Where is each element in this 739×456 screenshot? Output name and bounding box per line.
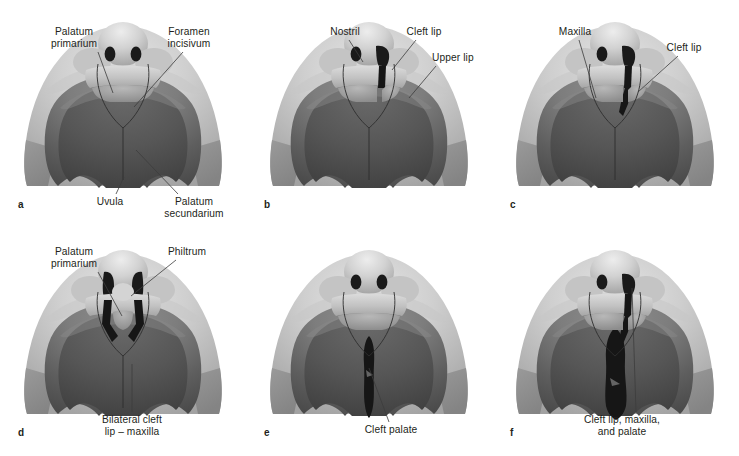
label-uvula: Uvula — [88, 196, 132, 208]
panel-letter-f: f — [510, 428, 513, 438]
label-palatum-primarium: Palatum primarium — [36, 246, 112, 269]
label-maxilla: Maxilla — [550, 26, 600, 38]
panel-f: Cleft lip, maxilla, and palatef — [492, 228, 738, 456]
label-bilateral-cleft-lip-maxilla: Bilateral cleft lip – maxilla — [84, 414, 180, 437]
panel-b: NostrilCleft lipUpper lipb — [246, 0, 492, 228]
panel-letter-a: a — [18, 200, 24, 210]
cleft-palate-narrow — [364, 336, 375, 418]
label-palatum-primarium: Palatum primarium — [36, 26, 112, 49]
panel-letter-d: d — [18, 428, 24, 438]
label-cleft-lip: Cleft lip — [658, 42, 710, 54]
nostril-left — [597, 46, 608, 61]
anatomy-illustration-c — [492, 0, 738, 228]
label-upper-lip: Upper lip — [432, 52, 490, 64]
upper-lip — [85, 66, 161, 89]
philtrum — [112, 283, 134, 301]
panel-letter-c: c — [510, 200, 516, 210]
cleft-lip-gap — [624, 66, 632, 88]
label-cleft-lip-maxilla-and-palate: Cleft lip, maxilla, and palate — [566, 414, 678, 437]
panel-c: MaxillaCleft lipc — [492, 0, 738, 228]
label-nostril: Nostril — [322, 26, 368, 38]
upper-lip — [331, 294, 407, 317]
nostril-left — [351, 46, 362, 61]
anatomy-illustration-e — [246, 228, 492, 456]
nostril-left — [597, 274, 608, 289]
label-cleft-palate: Cleft palate — [354, 424, 428, 436]
upper-lip — [331, 66, 407, 89]
nostril-left — [351, 274, 362, 289]
nostril-right — [377, 274, 388, 289]
panel-e: Cleft palatee — [246, 228, 492, 456]
label-foramen-incisivum: Foramen incisivum — [150, 26, 228, 49]
label-palatum-secundarium: Palatum secundarium — [150, 196, 238, 219]
upper-lip — [577, 294, 653, 317]
figure-plate: Palatum primariumForamen incisivumUvulaP… — [0, 0, 739, 456]
panel-a: Palatum primariumForamen incisivumUvulaP… — [0, 0, 246, 228]
panel-letter-e: e — [264, 428, 270, 438]
anatomy-illustration-b — [246, 0, 492, 228]
panel-letter-b: b — [264, 200, 270, 210]
label-philtrum: Philtrum — [160, 246, 214, 258]
nostril-right — [131, 46, 142, 61]
cleft-lip-gap — [624, 294, 632, 316]
label-cleft-lip: Cleft lip — [398, 26, 450, 38]
upper-lip — [577, 66, 653, 89]
panel-d: Palatum primariumPhiltrumBilateral cleft… — [0, 228, 246, 456]
cleft-lip-gap — [378, 66, 386, 88]
